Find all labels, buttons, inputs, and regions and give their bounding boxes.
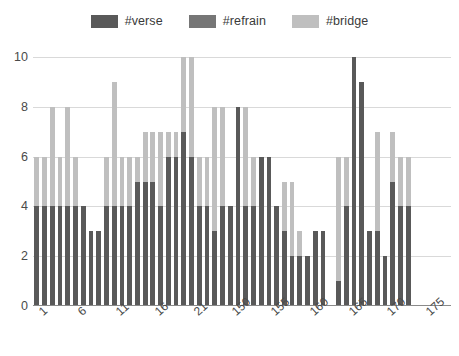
bar-slot[interactable] <box>366 57 374 306</box>
stacked-bar[interactable] <box>34 157 39 306</box>
stacked-bar[interactable] <box>65 107 70 306</box>
stacked-bar[interactable] <box>375 132 380 306</box>
bar-slot[interactable] <box>250 57 258 306</box>
bar-slot[interactable] <box>56 57 64 306</box>
stacked-bar[interactable] <box>359 82 364 306</box>
bar-slot[interactable] <box>397 57 405 306</box>
bar-slot[interactable] <box>296 57 304 306</box>
bar-slot[interactable] <box>149 57 157 306</box>
stacked-bar[interactable] <box>135 157 140 306</box>
stacked-bar[interactable] <box>251 157 256 306</box>
bar-slot[interactable] <box>373 57 381 306</box>
stacked-bar[interactable] <box>174 132 179 306</box>
stacked-bar[interactable] <box>73 157 78 306</box>
stacked-bar[interactable] <box>259 157 264 306</box>
bar-slot[interactable] <box>427 57 435 306</box>
bar-slot[interactable] <box>118 57 126 306</box>
stacked-bar[interactable] <box>58 157 63 306</box>
bar-slot[interactable] <box>242 57 250 306</box>
stacked-bar[interactable] <box>352 57 357 306</box>
bar-slot[interactable] <box>64 57 72 306</box>
bar-slot[interactable] <box>288 57 296 306</box>
bar-slot[interactable] <box>211 57 219 306</box>
stacked-bar[interactable] <box>96 231 101 306</box>
bar-slot[interactable] <box>41 57 49 306</box>
bar-slot[interactable] <box>327 57 335 306</box>
bar-slot[interactable] <box>72 57 80 306</box>
bar-slot[interactable] <box>350 57 358 306</box>
bar-slot[interactable] <box>404 57 412 306</box>
bar-slot[interactable] <box>389 57 397 306</box>
stacked-bar[interactable] <box>243 107 248 306</box>
bar-slot[interactable] <box>342 57 350 306</box>
stacked-bar[interactable] <box>81 206 86 306</box>
bar-slot[interactable] <box>180 57 188 306</box>
stacked-bar[interactable] <box>344 157 349 306</box>
bar-slot[interactable] <box>219 57 227 306</box>
bar-slot[interactable] <box>141 57 149 306</box>
bar-slot[interactable] <box>358 57 366 306</box>
stacked-bar[interactable] <box>398 157 403 306</box>
bar-slot[interactable] <box>79 57 87 306</box>
bar-slot[interactable] <box>157 57 165 306</box>
bar-slot[interactable] <box>126 57 134 306</box>
legend-item-refrain[interactable]: #refrain <box>189 14 266 28</box>
stacked-bar[interactable] <box>305 256 310 306</box>
bar-slot[interactable] <box>412 57 420 306</box>
stacked-bar[interactable] <box>297 231 302 306</box>
stacked-bar[interactable] <box>274 206 279 306</box>
stacked-bar[interactable] <box>282 182 287 306</box>
legend-item-bridge[interactable]: #bridge <box>292 14 368 28</box>
bar-slot[interactable] <box>188 57 196 306</box>
stacked-bar[interactable] <box>50 107 55 306</box>
stacked-bar[interactable] <box>290 182 295 306</box>
bar-slot[interactable] <box>172 57 180 306</box>
bar-slot[interactable] <box>319 57 327 306</box>
bar-slot[interactable] <box>281 57 289 306</box>
bar-slot[interactable] <box>103 57 111 306</box>
stacked-bar[interactable] <box>220 107 225 306</box>
stacked-bar[interactable] <box>406 157 411 306</box>
stacked-bar[interactable] <box>212 107 217 306</box>
bar-slot[interactable] <box>33 57 41 306</box>
bar-slot[interactable] <box>420 57 428 306</box>
stacked-bar[interactable] <box>112 82 117 306</box>
stacked-bar[interactable] <box>228 206 233 306</box>
stacked-bar[interactable] <box>158 132 163 306</box>
bar-slot[interactable] <box>226 57 234 306</box>
bar-slot[interactable] <box>110 57 118 306</box>
stacked-bar[interactable] <box>143 132 148 306</box>
stacked-bar[interactable] <box>42 157 47 306</box>
stacked-bar[interactable] <box>189 57 194 306</box>
stacked-bar[interactable] <box>390 132 395 306</box>
legend-item-verse[interactable]: #verse <box>91 14 163 28</box>
bar-slot[interactable] <box>273 57 281 306</box>
stacked-bar[interactable] <box>336 157 341 306</box>
stacked-bar[interactable] <box>150 132 155 306</box>
bar-slot[interactable] <box>265 57 273 306</box>
bar-slot[interactable] <box>257 57 265 306</box>
stacked-bar[interactable] <box>383 256 388 306</box>
stacked-bar[interactable] <box>89 231 94 306</box>
stacked-bar[interactable] <box>120 157 125 306</box>
bar-slot[interactable] <box>87 57 95 306</box>
bar-slot[interactable] <box>95 57 103 306</box>
stacked-bar[interactable] <box>236 107 241 306</box>
stacked-bar[interactable] <box>367 231 372 306</box>
bar-slot[interactable] <box>164 57 172 306</box>
bar-slot[interactable] <box>311 57 319 306</box>
stacked-bar[interactable] <box>205 157 210 306</box>
stacked-bar[interactable] <box>166 132 171 306</box>
bar-slot[interactable] <box>304 57 312 306</box>
bar-slot[interactable] <box>203 57 211 306</box>
stacked-bar[interactable] <box>104 157 109 306</box>
bar-slot[interactable] <box>48 57 56 306</box>
bar-slot[interactable] <box>134 57 142 306</box>
bar-slot[interactable] <box>335 57 343 306</box>
stacked-bar[interactable] <box>313 231 318 306</box>
bar-slot[interactable] <box>234 57 242 306</box>
stacked-bar[interactable] <box>127 157 132 306</box>
bar-slot[interactable] <box>195 57 203 306</box>
bar-slot[interactable] <box>381 57 389 306</box>
bar-slot[interactable] <box>443 57 451 306</box>
